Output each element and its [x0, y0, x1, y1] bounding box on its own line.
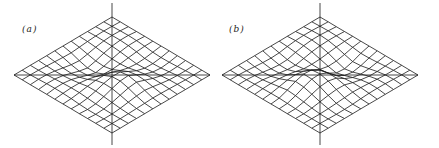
wireframe-surface-b — [220, 0, 439, 148]
mesh-grid-a — [14, 3, 210, 145]
surface-plot-a: (a) — [0, 0, 219, 148]
surface-plot-b: (b) — [220, 0, 439, 148]
mesh-grid-b — [222, 3, 418, 145]
wireframe-surface-a — [0, 0, 219, 148]
